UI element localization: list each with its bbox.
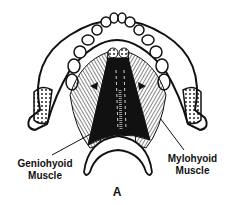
- panel-label: A: [109, 186, 125, 198]
- mylohyoid-leader-line: [160, 118, 184, 150]
- mylohyoid-label-line2: Muscle: [160, 165, 225, 177]
- mylohyoid-label: Mylohyoid Muscle: [160, 153, 225, 177]
- geniohyoid-label: Geniohyoid Muscle: [10, 158, 80, 182]
- mandible-anatomy-diagram: Geniohyoid Muscle Mylohyoid Muscle A: [0, 0, 235, 205]
- mylohyoid-label-line1: Mylohyoid: [160, 153, 225, 165]
- geniohyoid-label-line1: Geniohyoid: [10, 158, 80, 170]
- geniohyoid-label-line2: Muscle: [10, 170, 80, 182]
